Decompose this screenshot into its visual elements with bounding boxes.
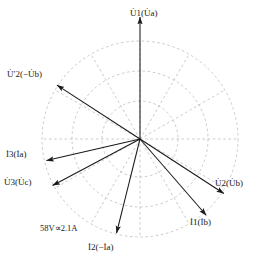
phasor-u2: [140, 139, 224, 193]
phasor-i1: [140, 139, 206, 215]
vector-label-u3: U̇3(U̇c): [4, 178, 32, 187]
vector-label-i1: İ1(İb): [190, 218, 211, 227]
grid-spoke-120: [91, 54, 140, 139]
grid-spoke-330: [140, 139, 225, 188]
phasor-i3: [46, 139, 140, 161]
vector-label-i2: İ2(−İa): [88, 243, 114, 252]
phasor-i2: [117, 139, 140, 233]
grid-spoke-60: [140, 54, 189, 139]
grid-spoke-150: [55, 90, 140, 139]
scale-annotation: 58V∝2.1A: [40, 223, 77, 233]
phasor-vectors: [46, 17, 223, 233]
vector-label-u1: U̇1(U̇a): [130, 9, 158, 18]
vector-label-i3: İ3(İa): [6, 150, 26, 159]
vector-label-u2-prime: U̇′2(−U̇b): [7, 70, 42, 79]
grid-spoke-30: [140, 90, 225, 139]
phasor-u2p: [57, 85, 140, 139]
grid-spoke-300: [140, 139, 189, 224]
vector-label-u2: U̇2(U̇b): [215, 179, 243, 188]
